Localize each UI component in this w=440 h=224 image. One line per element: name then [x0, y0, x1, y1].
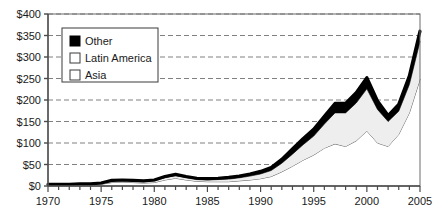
x-axis-tick-label: 1985 — [195, 195, 219, 207]
y-axis-tick-label: $250 — [17, 73, 41, 85]
legend-label-asia: Asia — [85, 69, 107, 81]
y-axis-tick-label: $200 — [17, 94, 41, 106]
legend-label-latin-america: Latin America — [85, 52, 153, 64]
x-axis-tick-label: 2005 — [408, 195, 432, 207]
y-axis-tick-label: $0 — [29, 180, 41, 192]
x-axis-tick-label: 2000 — [355, 195, 379, 207]
chart-legend: OtherLatin AmericaAsia — [62, 28, 158, 82]
x-axis-tick-label: 1980 — [142, 195, 166, 207]
y-axis-group: $0$50$100$150$200$250$300$350$400 — [17, 8, 48, 192]
x-axis-tick-label: 1970 — [36, 195, 60, 207]
legend-swatch-other — [70, 36, 80, 46]
legend-swatch-latin-america — [70, 53, 80, 63]
y-axis-tick-label: $100 — [17, 137, 41, 149]
stacked-area-chart: $0$50$100$150$200$250$300$350$400 197019… — [0, 0, 440, 224]
y-axis-tick-label: $400 — [17, 8, 41, 20]
x-axis-tick-label: 1990 — [248, 195, 272, 207]
legend-swatch-asia — [70, 70, 80, 80]
y-axis-tick-label: $150 — [17, 116, 41, 128]
y-axis-tick-label: $50 — [23, 159, 41, 171]
x-axis-group: 19701975198019851990199520002005 — [36, 186, 432, 207]
chart-canvas: $0$50$100$150$200$250$300$350$400 197019… — [0, 0, 440, 224]
y-axis-tick-label: $300 — [17, 51, 41, 63]
x-axis-tick-label: 1995 — [301, 195, 325, 207]
y-axis-tick-label: $350 — [17, 30, 41, 42]
x-axis-tick-label: 1975 — [89, 195, 113, 207]
legend-label-other: Other — [85, 35, 113, 47]
